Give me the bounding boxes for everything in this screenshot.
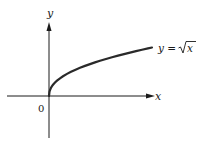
x-axis-arrow-icon xyxy=(146,94,155,99)
y-axis-arrow-icon xyxy=(47,22,52,31)
curve-label-radicand: x xyxy=(187,42,193,54)
curve-label-lhs: y = xyxy=(157,42,176,54)
origin-label: 0 xyxy=(38,103,44,114)
curve-label: y = x xyxy=(157,42,196,55)
sqrt-graph: y x 0 y = x xyxy=(0,0,207,144)
y-axis-label: y xyxy=(46,7,54,20)
x-axis-label: x xyxy=(155,90,162,103)
sqrt-curve xyxy=(49,48,152,97)
